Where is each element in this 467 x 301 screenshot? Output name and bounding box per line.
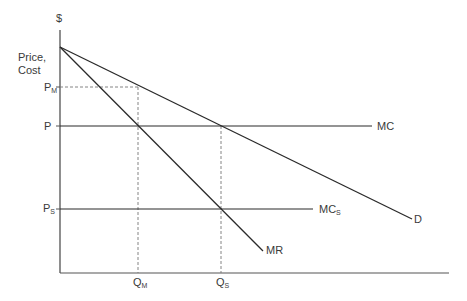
pm-label: PM [44,81,57,94]
monopoly-subsidy-diagram: $ Price, Cost PM P PS QM QS MC MCS D MR [0,0,467,301]
qs-label: QS [216,276,230,289]
price-label: Price, [18,51,46,63]
qm-label: QM [133,276,148,289]
ps-label: PS [43,202,55,215]
mr-line [60,47,263,251]
demand-line [60,47,412,219]
mr-curve-label: MR [266,244,283,256]
d-curve-label: D [414,213,422,225]
mc-curve-label: MC [377,120,394,132]
mcs-curve-label: MCS [319,203,341,216]
p-label: P [44,120,51,132]
cost-label: Cost [18,64,41,76]
dollar-label: $ [56,12,62,24]
